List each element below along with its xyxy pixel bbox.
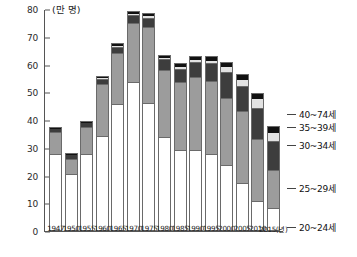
- bar-1947[interactable]: [49, 127, 62, 231]
- legend-item-35~39세[interactable]: 35~39세: [287, 121, 336, 134]
- legend-label: 35~39세: [299, 121, 336, 134]
- legend-label: 30~34세: [299, 139, 336, 152]
- bar-segment-20~24세: [50, 155, 61, 231]
- legend-leader-line: [287, 188, 296, 189]
- bar-segment-25~29세: [97, 85, 108, 137]
- bar-2000[interactable]: [220, 62, 233, 231]
- x-tick-label: 1965: [109, 224, 126, 233]
- x-tick-label: 1995: [203, 224, 220, 233]
- legend-item-40~74세[interactable]: 40~74세: [287, 108, 336, 121]
- bar-segment-20~24세: [97, 137, 108, 231]
- bar-segment-25~29세: [190, 78, 201, 151]
- legend-item-30~34세[interactable]: 30~34세: [287, 139, 336, 152]
- bar-1955[interactable]: [80, 121, 93, 231]
- bar-segment-20~24세: [128, 83, 139, 231]
- bar-segment-30~34세: [128, 16, 139, 24]
- bar-slot: [64, 10, 80, 231]
- y-tick-label: 30: [27, 144, 45, 154]
- bar-slot: [234, 10, 250, 231]
- bar-1960[interactable]: [96, 76, 109, 231]
- bar-segment-20~24세: [159, 138, 170, 231]
- x-tick-label: 1985: [172, 224, 189, 233]
- bar-segment-30~34세: [252, 109, 263, 141]
- bar-2005[interactable]: [236, 74, 249, 231]
- y-tick-label: 70: [27, 33, 45, 43]
- bar-1965[interactable]: [111, 43, 124, 231]
- bar-1990[interactable]: [189, 56, 202, 231]
- bar-segment-20~24세: [143, 104, 154, 231]
- bar-1950[interactable]: [65, 153, 78, 231]
- bar-segment-30~34세: [159, 60, 170, 71]
- y-tick-label: 10: [27, 199, 45, 209]
- x-tick-label: 2015(년): [259, 224, 287, 234]
- bar-slot: [79, 10, 95, 231]
- bar-segment-25~29세: [143, 28, 154, 104]
- legend-label: 25~29세: [299, 182, 336, 195]
- bar-segment-30~34세: [206, 64, 217, 82]
- bar-segment-20~24세: [175, 151, 186, 231]
- bar-segment-30~34세: [175, 70, 186, 83]
- bar-segment-30~34세: [143, 19, 154, 28]
- y-tick-label: 0: [32, 227, 45, 237]
- bar-segment-25~29세: [50, 133, 61, 155]
- bar-slot: [110, 10, 126, 231]
- y-tick-label: 20: [27, 172, 45, 182]
- bar-segment-25~29세: [252, 140, 263, 202]
- bar-segment-25~29세: [206, 82, 217, 155]
- bar-slot: [250, 10, 266, 231]
- bar-segment-20~24세: [190, 151, 201, 231]
- y-tick-label: 50: [27, 88, 45, 98]
- chart-figure: (만 명) 01020304050607080 1947195019551960…: [0, 0, 357, 257]
- bar-segment-25~29세: [112, 54, 123, 105]
- bar-segment-25~29세: [268, 171, 279, 209]
- plot-area: 01020304050607080: [44, 10, 283, 232]
- bar-slot: [188, 10, 204, 231]
- legend-label: 40~74세: [299, 108, 336, 121]
- legend-item-20~24세[interactable]: 20~24세: [287, 221, 336, 234]
- bar-slot: [203, 10, 219, 231]
- bar-1995[interactable]: [205, 56, 218, 231]
- bar-segment-25~29세: [128, 24, 139, 83]
- bar-1980[interactable]: [158, 55, 171, 231]
- bar-segment-25~29세: [66, 160, 77, 175]
- bar-segment-20~24세: [81, 155, 92, 231]
- bar-segment-20~24세: [206, 155, 217, 231]
- bar-segment-25~29세: [81, 128, 92, 155]
- bar-segment-20~24세: [221, 166, 232, 231]
- bar-slot: [126, 10, 142, 231]
- x-tick-label: 1960: [94, 224, 111, 233]
- bar-slot: [219, 10, 235, 231]
- y-tick-label: 60: [27, 61, 45, 71]
- x-tick-label: 1980: [156, 224, 173, 233]
- x-tick-label: 1970: [125, 224, 142, 233]
- bar-1970[interactable]: [127, 11, 140, 231]
- x-tick-label: 1947: [47, 224, 64, 233]
- bar-slot: [265, 10, 281, 231]
- legend-leader-line: [287, 227, 296, 228]
- legend-item-25~29세[interactable]: 25~29세: [287, 182, 336, 195]
- bar-2010[interactable]: [251, 93, 264, 231]
- x-tick-label: 1975: [141, 224, 158, 233]
- bar-segment-35~39세: [268, 133, 279, 142]
- legend-label: 20~24세: [299, 221, 336, 234]
- bar-slot: [157, 10, 173, 231]
- bar-segment-35~39세: [252, 99, 263, 108]
- legend-leader-line: [287, 127, 296, 128]
- bar-segment-25~29세: [237, 112, 248, 184]
- bar-slot: [172, 10, 188, 231]
- bar-slot: [141, 10, 157, 231]
- bar-segment-30~34세: [268, 142, 279, 171]
- legend-leader-line: [287, 145, 296, 146]
- bar-1975[interactable]: [142, 13, 155, 231]
- x-tick-label: 2000: [218, 224, 235, 233]
- bar-1985[interactable]: [174, 63, 187, 231]
- bar-segment-20~24세: [112, 105, 123, 231]
- bar-segment-25~29세: [175, 83, 186, 151]
- bar-2015[interactable]: [267, 126, 280, 231]
- x-tick-label: 1950: [63, 224, 80, 233]
- x-tick-label: 1955: [78, 224, 95, 233]
- bar-segment-30~34세: [221, 73, 232, 99]
- bar-segment-25~29세: [221, 99, 232, 167]
- bar-segment-30~34세: [190, 63, 201, 78]
- legend-leader-line: [287, 114, 296, 115]
